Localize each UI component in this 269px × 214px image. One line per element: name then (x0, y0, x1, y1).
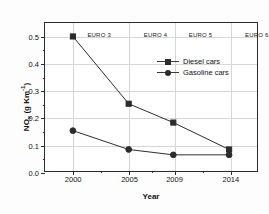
chart-figure: NOx (g Km-1) Year 0.00.10.20.30.40.52000… (0, 0, 269, 214)
data-point-marker (227, 147, 232, 152)
x-tick-label: 2014 (222, 175, 239, 184)
diesel-marker-icon (157, 57, 179, 66)
x-axis-title: Year (44, 192, 258, 201)
y-tick-label: 0.0 (29, 169, 39, 178)
data-point-marker (126, 101, 131, 106)
legend-label-diesel: Diesel cars (183, 56, 220, 67)
y-axis-title-sup: -1 (20, 86, 26, 91)
plot-area: 0.00.10.20.30.40.52000200520092014 EURO … (44, 22, 258, 172)
data-point-marker (170, 152, 176, 158)
series-line-circle (73, 131, 229, 155)
data-point-marker (226, 152, 232, 158)
x-tick-label: 2009 (166, 175, 183, 184)
y-tick-label: 0.4 (29, 59, 39, 68)
y-tick-label: 0.1 (29, 141, 39, 150)
x-tick-minor (203, 171, 204, 173)
data-point-marker (171, 120, 176, 125)
legend-item-gasoline: Gasoline cars (157, 67, 229, 78)
x-tick-minor (101, 171, 102, 173)
legend-item-diesel: Diesel cars (157, 56, 229, 67)
x-tick-minor (152, 171, 153, 173)
y-tick-label: 0.5 (29, 32, 39, 41)
y-tick-label: 0.3 (29, 87, 39, 96)
y-axis-title-close: ) (22, 83, 31, 86)
series-layer (45, 23, 257, 171)
x-tick-label: 2000 (65, 175, 82, 184)
y-tick-major (41, 173, 45, 174)
chart-legend: Diesel cars Gasoline cars (157, 56, 229, 78)
data-point-marker (70, 128, 76, 134)
series-line-square (73, 36, 229, 149)
x-tick-label: 2005 (121, 175, 138, 184)
y-tick-label: 0.2 (29, 114, 39, 123)
data-point-marker (126, 147, 132, 153)
data-point-marker (70, 34, 75, 39)
legend-label-gasoline: Gasoline cars (183, 67, 229, 78)
gasoline-marker-icon (157, 68, 179, 77)
